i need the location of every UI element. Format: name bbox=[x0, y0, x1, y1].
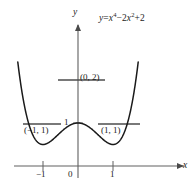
point-label-left-min: (−1, 1) bbox=[24, 126, 49, 135]
x-axis-label: x bbox=[183, 161, 187, 171]
x-tick-label-zero: 0 bbox=[68, 170, 73, 179]
figure-canvas: y x y=x4−2x2+2 (0, 2) (−1, 1) (1, 1) 1 −… bbox=[0, 0, 195, 191]
equation-term3: 2 bbox=[140, 13, 145, 23]
graph-svg bbox=[0, 0, 195, 191]
y-axis-arrowhead bbox=[75, 24, 81, 31]
y-axis-label: y bbox=[73, 8, 77, 18]
x-tick-label-minus1: −1 bbox=[36, 170, 46, 179]
point-label-local-max: (0, 2) bbox=[80, 73, 100, 82]
equation-label: y=x4−2x2+2 bbox=[99, 14, 145, 24]
point-label-right-min: (1, 1) bbox=[101, 126, 121, 135]
x-tick-label-plus1: 1 bbox=[110, 170, 115, 179]
y-tick-label-1: 1 bbox=[64, 118, 69, 127]
